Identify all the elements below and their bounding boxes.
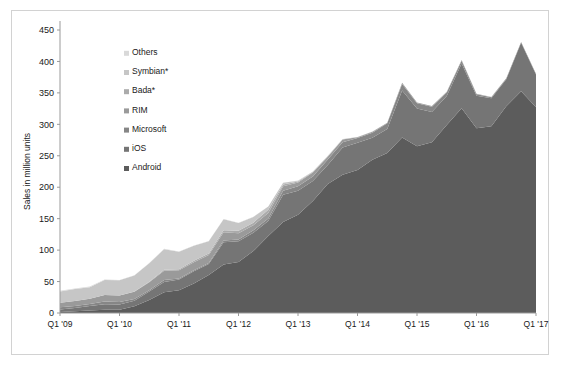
legend-swatch-others xyxy=(124,51,129,56)
y-axis-tick-label: 400 xyxy=(39,57,54,67)
legend-swatch-rim xyxy=(124,108,129,113)
x-axis-tick-label: Q1 '15 xyxy=(405,319,430,329)
y-axis-tick-label: 200 xyxy=(39,182,54,192)
y-axis-tick-label: 350 xyxy=(39,88,54,98)
x-axis-tick-label: Q1 '16 xyxy=(464,319,489,329)
y-axis-tick-label: 250 xyxy=(39,151,54,161)
x-axis-tick-label: Q1 '10 xyxy=(107,319,132,329)
y-axis-tick-label: 150 xyxy=(39,214,54,224)
y-axis-tick-label: 0 xyxy=(49,308,54,318)
legend-label-rim: RIM xyxy=(132,105,148,115)
legend-label-others: Others xyxy=(132,47,158,57)
legend-label-android: Android xyxy=(132,162,162,172)
y-axis-tick-label: 50 xyxy=(44,277,54,287)
legend-swatch-ios xyxy=(124,147,129,152)
x-axis-tick-label: Q1 '13 xyxy=(286,319,311,329)
legend-label-microsoft: Microsoft xyxy=(132,124,167,134)
legend-swatch-microsoft xyxy=(124,128,129,133)
y-axis-tick-label: 100 xyxy=(39,245,54,255)
x-axis-tick-label: Q1 '12 xyxy=(226,319,251,329)
legend-label-symbian: Symbian* xyxy=(132,66,169,76)
legend-label-ios: iOS xyxy=(132,143,147,153)
x-axis-tick-label: Q1 '11 xyxy=(167,319,191,329)
x-axis-tick-label: Q1 '17 xyxy=(524,319,549,329)
x-axis-tick-label: Q1 '09 xyxy=(48,319,73,329)
y-axis-tick-label: 300 xyxy=(39,120,54,130)
legend-swatch-symbian xyxy=(124,70,129,75)
y-axis-title: Sales in million units xyxy=(22,133,32,210)
legend-label-bada: Bada* xyxy=(132,85,156,95)
chart-frame: 050100150200250300350400450Sales in mill… xyxy=(11,10,549,355)
stacked-area-chart: 050100150200250300350400450Sales in mill… xyxy=(12,11,550,356)
y-axis-tick-label: 450 xyxy=(39,25,54,35)
x-axis-tick-label: Q1 '14 xyxy=(345,319,370,329)
legend-swatch-android xyxy=(124,166,129,171)
legend-swatch-bada xyxy=(124,89,129,94)
